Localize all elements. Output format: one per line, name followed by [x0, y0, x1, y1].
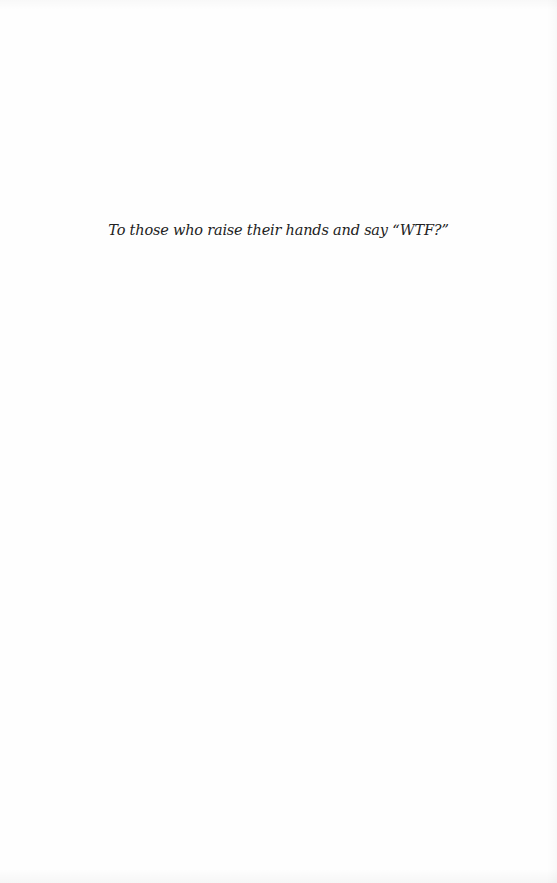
scan-edge-right: [547, 0, 557, 883]
dedication-text: To those who raise their hands and say “…: [0, 220, 557, 240]
scan-edge-top: [0, 0, 557, 10]
scan-edge-bottom: [0, 869, 557, 883]
book-page: To those who raise their hands and say “…: [0, 0, 557, 883]
